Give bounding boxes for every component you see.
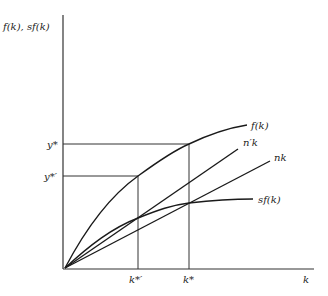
x-axis-label: k — [303, 274, 309, 285]
sf-curve-label: sf(k) — [258, 194, 281, 205]
y-star-prime-label: y*′ — [43, 171, 58, 182]
y-axis-label: f(k), sf(k) — [2, 21, 50, 32]
nk-line — [65, 161, 270, 268]
f-curve — [65, 125, 247, 268]
sf-curve — [65, 199, 253, 268]
y-star-label: y* — [46, 139, 58, 150]
k-star-label: k* — [183, 274, 194, 285]
k-star-prime-label: k*′ — [129, 274, 143, 285]
solow-diagram: f(k), sf(k) k y* y*′ k*′ k* f(k) n′k nk … — [0, 0, 328, 296]
nprime-k-label: n′k — [243, 137, 258, 148]
nk-label: nk — [274, 152, 287, 163]
f-curve-label: f(k) — [250, 120, 269, 131]
